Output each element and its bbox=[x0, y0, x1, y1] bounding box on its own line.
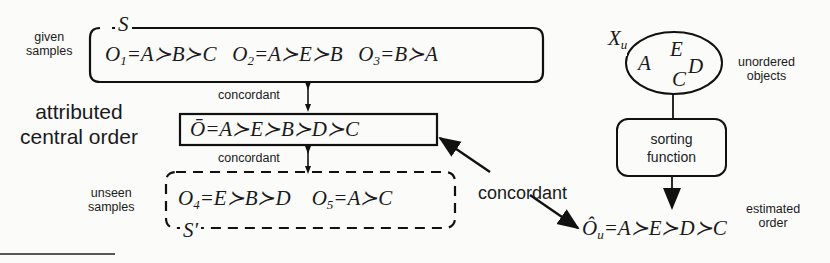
given-samples-label-line2: samples bbox=[26, 44, 73, 58]
given-orders: O1=A≻B≻C O2=A≻E≻B O3=B≻A bbox=[105, 41, 438, 74]
estimated-order-label: estimated order bbox=[746, 202, 800, 230]
order-o2: O2=A≻E≻B bbox=[232, 42, 342, 66]
unordered-set-symbol: Xu bbox=[608, 27, 627, 56]
object-d: D bbox=[688, 55, 703, 77]
unordered-objects-label-line2: objects bbox=[738, 69, 795, 83]
unordered-objects-label: unordered objects bbox=[738, 55, 795, 83]
unseen-samples-label-line1: unseen bbox=[88, 186, 135, 200]
order-o4: O4=E≻B≻D bbox=[178, 186, 291, 210]
unseen-orders: O4=E≻B≻D O5=A≻C bbox=[178, 185, 392, 218]
central-order-label-line2: central order bbox=[20, 124, 138, 149]
given-samples-label-line1: given bbox=[26, 30, 73, 44]
estimated-order-label-line2: order bbox=[746, 216, 800, 230]
unseen-set-symbol: S′ bbox=[180, 218, 201, 242]
diagram-canvas: given samples S O1=A≻B≻C O2=A≻E≻B O3=B≻A… bbox=[0, 0, 830, 263]
order-o5: O5=A≻C bbox=[312, 186, 393, 210]
right-concordant-label: concordant bbox=[478, 183, 567, 204]
estimated-order-label-line1: estimated bbox=[746, 202, 800, 216]
object-c: C bbox=[672, 68, 686, 90]
concordant-arrow-to-central bbox=[440, 138, 490, 172]
object-a: A bbox=[638, 52, 651, 74]
order-o3: O3=B≻A bbox=[358, 42, 438, 66]
object-e: E bbox=[670, 38, 683, 60]
estimated-order-expr: Ôu=A≻E≻D≻C bbox=[582, 215, 727, 248]
lower-concordant-label: concordant bbox=[218, 151, 280, 165]
central-order-label-line1: attributed bbox=[20, 99, 138, 124]
central-order-label: attributed central order bbox=[20, 99, 138, 149]
given-samples-label: given samples bbox=[26, 30, 73, 58]
order-o1: O1=A≻B≻C bbox=[105, 42, 217, 66]
sorting-function-label-line1: sorting bbox=[617, 130, 726, 148]
central-order-expr: Ō=A≻E≻B≻D≻C bbox=[190, 116, 359, 142]
sorting-function-label: sorting function bbox=[617, 130, 726, 166]
upper-concordant-label: concordant bbox=[218, 88, 280, 102]
given-set-symbol: S bbox=[115, 12, 132, 36]
sorting-function-label-line2: function bbox=[617, 148, 726, 166]
unordered-objects-label-line1: unordered bbox=[738, 55, 795, 69]
unseen-samples-label-line2: samples bbox=[88, 200, 135, 214]
unseen-samples-label: unseen samples bbox=[88, 186, 135, 214]
